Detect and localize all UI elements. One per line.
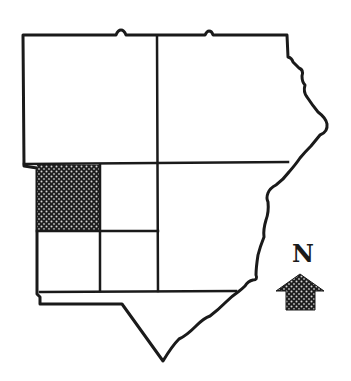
north-arrow-icon [276,274,324,310]
region-map [0,0,351,381]
north-label: N [290,241,316,267]
highlighted-region [37,165,100,231]
divider-horizontal-south [40,291,236,292]
